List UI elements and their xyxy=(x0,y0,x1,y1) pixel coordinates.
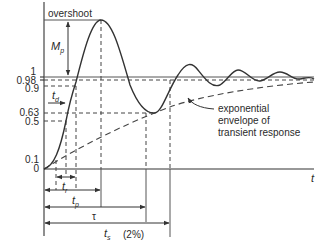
tau-label: τ xyxy=(92,211,96,222)
tr-label: tr xyxy=(62,180,68,194)
tick-label-05: 0.5 xyxy=(25,116,39,127)
envelope-label-line3: transient response xyxy=(218,127,301,138)
overshoot-label: overshoot xyxy=(48,8,92,19)
x-axis-label: t xyxy=(311,172,315,184)
envelope-pointer-arrow xyxy=(188,98,214,109)
ts-label: ts xyxy=(104,227,111,241)
step-response-curve xyxy=(44,20,314,169)
tick-label-09: 0.9 xyxy=(25,83,39,94)
envelope-label-line1: exponential xyxy=(218,103,269,114)
tick-label-0: 0 xyxy=(33,163,39,174)
envelope-label-line2: envelope of xyxy=(218,115,270,126)
td-label: td xyxy=(52,89,60,103)
mp-label: Mp xyxy=(51,40,64,55)
exponential-envelope xyxy=(44,82,314,169)
ts-note: (2%) xyxy=(123,229,144,240)
step-response-diagram: 1 0.98 0.9 0.63 0.5 0.1 0 overshoot Mp t… xyxy=(0,0,324,249)
diagram-canvas: 1 0.98 0.9 0.63 0.5 0.1 0 overshoot Mp t… xyxy=(0,0,324,249)
